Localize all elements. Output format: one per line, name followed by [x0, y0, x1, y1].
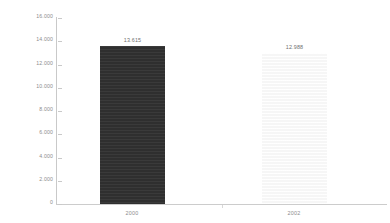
bar-2000[interactable]: 13.615	[100, 46, 165, 204]
y-axis-tick-label: 8.000	[39, 106, 53, 112]
plot-area: 13.615 12.988	[57, 18, 387, 204]
bar-chart: 16.000 14.000 12.000 10.000 8.000 6.000 …	[0, 0, 390, 223]
bar-texture	[100, 46, 165, 204]
y-axis-tick-mark	[58, 204, 62, 205]
bar-value-label: 13.615	[124, 37, 141, 43]
y-axis-tick-label: 12.000	[36, 60, 53, 66]
y-axis-tick-label: 2.000	[39, 176, 53, 182]
x-axis-tick-mark	[222, 205, 223, 208]
y-axis-tick-label: 16.000	[36, 13, 53, 19]
bar-value-label: 12.988	[286, 44, 303, 50]
y-axis-tick-label: 14.000	[36, 36, 53, 42]
x-axis-category-label-2000: 2000	[125, 210, 138, 216]
bar-texture	[262, 53, 327, 204]
bar-2002[interactable]: 12.988	[262, 53, 327, 204]
y-axis-tick-label: 6.000	[39, 129, 53, 135]
x-axis-category-label-2002: 2002	[287, 210, 300, 216]
y-axis-tick-label: 0	[50, 199, 53, 205]
y-axis-tick-label: 10.000	[36, 83, 53, 89]
y-axis-tick-label: 4.000	[39, 153, 53, 159]
